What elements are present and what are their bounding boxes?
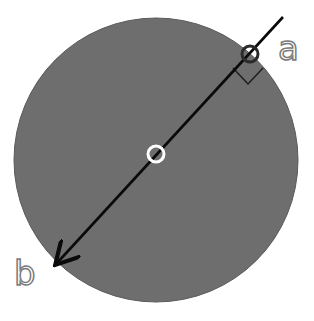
label-a: a — [278, 28, 299, 68]
label-b: b — [14, 253, 36, 293]
diagram-canvas: a b — [0, 0, 314, 321]
